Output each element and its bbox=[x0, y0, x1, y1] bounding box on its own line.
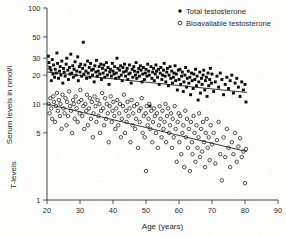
data-point-bioavailable bbox=[233, 131, 237, 135]
data-point-bioavailable bbox=[129, 140, 133, 144]
data-point-total bbox=[59, 65, 62, 68]
data-point-total bbox=[146, 63, 149, 66]
data-point-total bbox=[92, 68, 95, 71]
data-point-bioavailable bbox=[52, 100, 56, 104]
data-point-bioavailable bbox=[65, 100, 69, 104]
data-point-total bbox=[188, 76, 191, 79]
data-point-total bbox=[227, 87, 230, 90]
data-point-total bbox=[74, 60, 77, 63]
x-tick-label: 40 bbox=[109, 206, 117, 215]
data-point-bioavailable bbox=[147, 117, 151, 121]
data-point-total bbox=[75, 70, 78, 73]
data-point-bioavailable bbox=[196, 146, 200, 150]
data-point-bioavailable bbox=[197, 112, 201, 116]
data-point-total bbox=[47, 55, 50, 58]
data-point-bioavailable bbox=[198, 155, 202, 159]
x-tick-label: 80 bbox=[241, 206, 249, 215]
data-point-total bbox=[169, 77, 172, 80]
data-point-total bbox=[234, 82, 237, 85]
data-point-bioavailable bbox=[205, 117, 209, 121]
data-point-total bbox=[142, 66, 145, 69]
data-point-total bbox=[186, 77, 189, 80]
data-point-total bbox=[133, 70, 136, 73]
data-point-total bbox=[87, 72, 90, 75]
data-point-total bbox=[160, 78, 163, 81]
data-point-bioavailable bbox=[186, 146, 190, 150]
data-point-total bbox=[81, 67, 84, 70]
data-point-total bbox=[91, 74, 94, 77]
data-point-bioavailable bbox=[197, 136, 201, 140]
data-point-total bbox=[182, 90, 185, 93]
data-point-total bbox=[68, 66, 71, 69]
data-point-total bbox=[65, 57, 68, 60]
data-point-bioavailable bbox=[126, 100, 129, 104]
data-point-bioavailable bbox=[51, 117, 55, 121]
data-point-total bbox=[50, 79, 53, 82]
data-point-bioavailable bbox=[166, 107, 170, 111]
legend-label-2: Bioavailable testosterone bbox=[186, 19, 271, 28]
data-point-bioavailable bbox=[204, 131, 208, 135]
data-point-total bbox=[57, 77, 60, 80]
data-point-bioavailable bbox=[71, 98, 75, 102]
data-point-total bbox=[232, 92, 235, 95]
data-point-bioavailable bbox=[164, 102, 168, 106]
data-point-bioavailable bbox=[135, 102, 139, 106]
data-point-bioavailable bbox=[200, 150, 204, 154]
data-point-bioavailable bbox=[63, 112, 67, 116]
data-point-bioavailable bbox=[131, 112, 135, 116]
data-point-total bbox=[52, 64, 55, 67]
data-point-bioavailable bbox=[215, 138, 219, 142]
data-point-total bbox=[147, 70, 150, 73]
data-point-bioavailable bbox=[86, 124, 90, 128]
data-point-total bbox=[106, 74, 109, 77]
data-point-bioavailable bbox=[238, 136, 242, 140]
data-point-bioavailable bbox=[190, 140, 194, 144]
data-point-total bbox=[62, 67, 65, 70]
data-point-bioavailable bbox=[184, 109, 188, 113]
data-point-bioavailable bbox=[165, 114, 169, 118]
data-point-total bbox=[196, 75, 199, 78]
data-point-bioavailable bbox=[60, 127, 64, 131]
data-point-total bbox=[104, 69, 107, 72]
data-point-bioavailable bbox=[119, 136, 123, 140]
data-point-total bbox=[166, 67, 169, 70]
data-point-total bbox=[71, 64, 74, 67]
data-point-bioavailable bbox=[192, 114, 196, 118]
data-point-total bbox=[211, 73, 214, 76]
data-point-total bbox=[209, 67, 212, 70]
data-point-total bbox=[183, 80, 186, 83]
data-point-bioavailable bbox=[56, 109, 60, 113]
data-point-total bbox=[203, 89, 206, 92]
data-point-total bbox=[120, 74, 123, 77]
data-point-total bbox=[164, 75, 167, 78]
data-point-bioavailable bbox=[79, 88, 83, 92]
data-point-bioavailable bbox=[169, 112, 173, 116]
data-point-total bbox=[134, 74, 137, 77]
data-point-total bbox=[100, 78, 103, 81]
data-point-bioavailable bbox=[134, 117, 138, 121]
y-axis: 1510203050100 bbox=[28, 4, 47, 205]
data-point-total bbox=[83, 73, 86, 76]
data-point-bioavailable bbox=[138, 120, 142, 124]
data-point-total bbox=[121, 66, 124, 69]
data-point-total bbox=[129, 72, 132, 75]
data-point-bioavailable bbox=[209, 124, 213, 128]
data-point-bioavailable bbox=[52, 95, 56, 99]
data-point-total bbox=[95, 59, 98, 62]
data-point-total bbox=[242, 89, 245, 92]
data-point-total bbox=[63, 71, 66, 74]
data-point-bioavailable bbox=[146, 124, 150, 128]
data-point-total bbox=[222, 93, 225, 96]
data-point-total bbox=[97, 70, 100, 73]
data-point-total bbox=[135, 77, 138, 80]
data-point-total bbox=[181, 71, 184, 74]
data-point-total bbox=[50, 69, 53, 72]
data-point-total bbox=[56, 62, 59, 65]
data-point-total bbox=[161, 74, 164, 77]
data-point-total bbox=[212, 90, 215, 93]
data-point-total bbox=[64, 75, 67, 78]
data-point-bioavailable bbox=[122, 93, 126, 97]
data-point-bioavailable bbox=[175, 160, 179, 164]
data-point-bioavailable bbox=[180, 152, 184, 156]
data-point-bioavailable bbox=[117, 124, 121, 128]
